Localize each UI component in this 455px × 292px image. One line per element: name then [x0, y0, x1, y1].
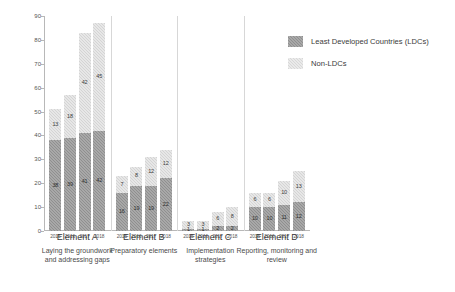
bar-element-b-2016[interactable]: 819 — [130, 167, 142, 231]
bar-value-ldc: 16 — [119, 209, 125, 215]
bar-segment-ldc: 10 — [263, 207, 275, 231]
y-tick-label: 60 — [34, 85, 41, 91]
bar-value-non-ldc: 8 — [231, 214, 234, 220]
bar-value-ldc: 19 — [148, 206, 154, 212]
bar-segment-ldc: 11 — [278, 205, 290, 231]
bar-value-non-ldc: 6 — [216, 216, 219, 222]
bar-element-c-2015[interactable]: 31 — [182, 221, 194, 231]
bar-segment-ldc: 1 — [182, 229, 194, 231]
bar-segment-ldc: 22 — [160, 178, 172, 231]
bar-value-ldc: 11 — [281, 215, 286, 221]
bar-segment-ldc: 41 — [79, 133, 91, 231]
bar-segment-ldc: 10 — [249, 207, 261, 231]
bar-group-element-c: 312015312016622017822018 — [177, 16, 244, 231]
group-label-element-d: Element D — [244, 232, 311, 242]
bar-segment-non-ldc: 10 — [278, 181, 290, 205]
bar-value-non-ldc: 6 — [268, 197, 271, 203]
bar-element-d-2018[interactable]: 1312 — [293, 171, 305, 231]
legend: Least Developed Countries (LDCs) Non-LDC… — [288, 36, 429, 80]
y-tick-label: 20 — [34, 180, 41, 186]
y-tick-label: 40 — [34, 132, 41, 138]
bar-element-a-2017[interactable]: 4241 — [79, 33, 91, 231]
y-tick-label: 30 — [34, 156, 41, 162]
bar-value-non-ldc: 12 — [148, 169, 154, 175]
bar-value-ldc: 10 — [267, 216, 273, 222]
bar-value-non-ldc: 8 — [135, 173, 138, 179]
bar-segment-ldc: 2 — [226, 226, 238, 231]
bar-segment-non-ldc: 8 — [226, 207, 238, 226]
bar-value-ldc: 42 — [96, 178, 102, 184]
bar-element-a-2015[interactable]: 1338 — [49, 109, 61, 231]
bar-segment-non-ldc: 13 — [49, 109, 61, 140]
bar-element-a-2016[interactable]: 1839 — [64, 95, 76, 231]
y-tick-label: 50 — [34, 109, 41, 115]
group-sublabel-line: and addressing gaps — [30, 256, 125, 265]
bar-value-non-ldc: 6 — [253, 197, 256, 203]
bar-segment-ldc: 16 — [116, 193, 128, 231]
bar-segment-non-ldc: 18 — [64, 95, 76, 138]
bar-value-ldc: 12 — [296, 214, 302, 220]
bar-value-non-ldc: 18 — [67, 114, 73, 120]
bar-element-c-2018[interactable]: 82 — [226, 207, 238, 231]
bar-segment-non-ldc: 45 — [93, 23, 105, 131]
group-separator — [177, 16, 178, 231]
bar-element-c-2016[interactable]: 31 — [197, 221, 209, 231]
bar-element-c-2017[interactable]: 62 — [212, 212, 224, 231]
legend-label-non-ldc: Non-LDCs — [311, 59, 346, 68]
bar-segment-ldc: 39 — [64, 138, 76, 231]
group-sublabel-line: review — [230, 256, 325, 265]
legend-item-non-ldc[interactable]: Non-LDCs — [288, 58, 429, 69]
group-separator — [244, 16, 245, 231]
legend-swatch-ldc — [288, 36, 303, 47]
bar-value-ldc: 38 — [52, 183, 58, 189]
bar-segment-ldc: 42 — [93, 131, 105, 231]
group-sublabel-line: Reporting, monitoring and — [230, 247, 325, 256]
bar-segment-ldc: 12 — [293, 202, 305, 231]
bar-segment-non-ldc: 13 — [293, 171, 305, 202]
bar-segment-non-ldc: 7 — [116, 176, 128, 193]
group-sublabel-element-d: Reporting, monitoring andreview — [230, 247, 325, 265]
bar-element-b-2017[interactable]: 1219 — [145, 157, 157, 231]
y-tick-label: 10 — [34, 204, 41, 210]
bar-group-element-b: 716201581920161219201712222018 — [111, 16, 178, 231]
bar-value-non-ldc: 13 — [52, 122, 58, 128]
bar-segment-non-ldc: 8 — [130, 167, 142, 186]
bar-chart: Number of Developing Country Parties 010… — [0, 0, 455, 292]
bar-value-ldc: 39 — [67, 182, 73, 188]
bar-value-non-ldc: 13 — [296, 184, 302, 190]
bar-value-non-ldc: 12 — [163, 161, 169, 167]
group-label-element-a: Element A — [44, 232, 111, 242]
bar-element-a-2018[interactable]: 4542 — [93, 23, 105, 231]
bar-element-b-2018[interactable]: 1222 — [160, 150, 172, 231]
y-tick-label: 80 — [34, 37, 41, 43]
y-tick-label: 90 — [34, 13, 41, 19]
bar-element-d-2015[interactable]: 610 — [249, 193, 261, 231]
bar-segment-non-ldc: 42 — [79, 33, 91, 133]
bar-segment-ldc: 2 — [212, 226, 224, 231]
bar-group-element-a: 13382015183920164241201745422018 — [44, 16, 111, 231]
group-separator — [111, 16, 112, 231]
bar-segment-non-ldc: 6 — [263, 193, 275, 207]
bar-segment-ldc: 19 — [130, 186, 142, 231]
legend-swatch-non-ldc — [288, 58, 303, 69]
bar-value-non-ldc: 10 — [281, 190, 287, 196]
bar-segment-ldc: 19 — [145, 186, 157, 231]
bar-value-ldc: 41 — [82, 179, 88, 185]
bar-value-ldc: 2 — [216, 226, 219, 232]
group-label-element-b: Element B — [111, 232, 178, 242]
bar-value-ldc: 19 — [134, 206, 140, 212]
legend-label-ldc: Least Developed Countries (LDCs) — [311, 37, 429, 46]
group-label-element-c: Element C — [177, 232, 244, 242]
bar-value-ldc: 2 — [231, 226, 234, 232]
bar-segment-non-ldc: 12 — [160, 150, 172, 179]
bar-element-d-2016[interactable]: 610 — [263, 193, 275, 231]
legend-item-ldc[interactable]: Least Developed Countries (LDCs) — [288, 36, 429, 47]
bar-element-d-2017[interactable]: 1011 — [278, 181, 290, 231]
bar-value-ldc: 10 — [252, 216, 258, 222]
bar-segment-non-ldc: 6 — [249, 193, 261, 207]
bar-element-b-2015[interactable]: 716 — [116, 176, 128, 231]
bar-value-non-ldc: 45 — [96, 74, 102, 80]
bar-segment-non-ldc: 12 — [145, 157, 157, 186]
bar-segment-ldc: 38 — [49, 140, 61, 231]
bar-value-ldc: 22 — [163, 202, 169, 208]
